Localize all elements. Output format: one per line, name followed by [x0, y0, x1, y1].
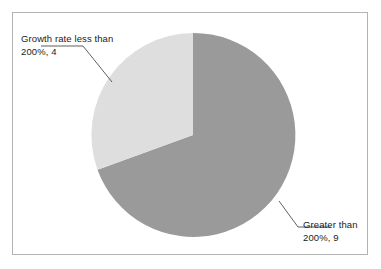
pie-label-greater-than-200: Greater than 200%, 9 — [303, 219, 358, 244]
pie-chart-figure: Growth rate less than 200%, 4 Greater th… — [0, 0, 381, 269]
pie-label-greater-than-200-line1: Greater than — [303, 219, 358, 232]
pie-label-less-than-200: Growth rate less than 200%, 4 — [21, 33, 113, 58]
pie-label-less-than-200-line1: Growth rate less than — [21, 33, 113, 46]
pie-label-greater-than-200-line2: 200%, 9 — [303, 232, 358, 245]
pie-label-less-than-200-line2: 200%, 4 — [21, 46, 113, 59]
